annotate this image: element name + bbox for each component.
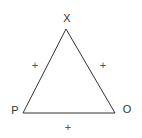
vertex-label-x: X [63, 12, 71, 24]
vertex-label-p: P [11, 104, 18, 116]
edge-mark-xp: + [32, 59, 38, 71]
triangle-xpo [23, 29, 115, 113]
edge-mark-xo: + [100, 59, 106, 71]
triangle-diagram: X P O + + + [0, 0, 142, 138]
edge-mark-po: + [65, 121, 71, 133]
vertex-label-o: O [123, 103, 132, 115]
